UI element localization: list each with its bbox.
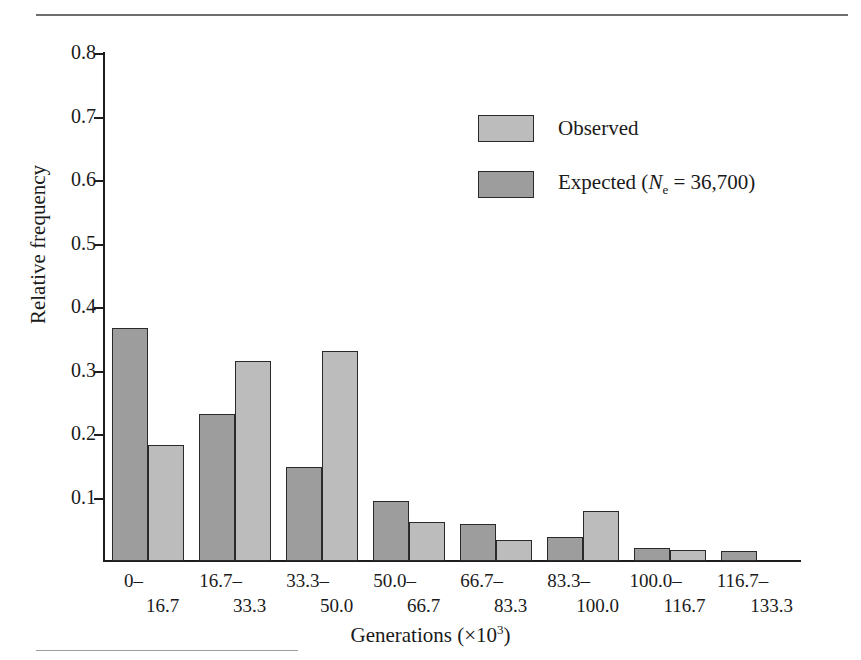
- legend: Observed Expected (Ne = 36,700): [478, 100, 755, 212]
- bar-observed: [148, 445, 184, 561]
- legend-expected-mid: = 36,700): [668, 170, 755, 194]
- bar-observed: [670, 550, 706, 561]
- legend-item-expected: Expected (Ne = 36,700): [478, 156, 755, 212]
- y-tick-label: 0.6: [71, 169, 96, 189]
- x-axis-title-close: ): [504, 623, 511, 647]
- bar-expected: [112, 328, 148, 561]
- bar-observed: [583, 511, 619, 561]
- bar-expected: [199, 414, 235, 561]
- y-tick-label: 0.5: [71, 233, 96, 253]
- bar-observed: [322, 351, 358, 561]
- x-tick-label: 116.7–133.3: [692, 568, 822, 618]
- bar-expected: [547, 537, 583, 561]
- legend-expected-prefix: Expected (: [558, 170, 648, 194]
- x-axis-title-text: Generations (×10: [350, 623, 497, 647]
- legend-item-observed: Observed: [478, 100, 755, 156]
- bar-expected: [721, 551, 757, 561]
- y-tick-label: 0.4: [71, 296, 96, 316]
- legend-expected-symbol: N: [648, 170, 662, 194]
- bar-observed: [496, 540, 532, 561]
- y-tick-label: 0.3: [71, 360, 96, 380]
- x-tick-label-line2: 133.3: [722, 593, 822, 618]
- bar-observed: [235, 361, 271, 561]
- y-tick-label: 0.8: [71, 42, 96, 62]
- bar-expected: [460, 524, 496, 561]
- bar-expected: [634, 548, 670, 561]
- bar-group: [112, 53, 184, 561]
- legend-label-observed: Observed: [558, 116, 638, 141]
- y-tick-label: 0.1: [71, 487, 96, 507]
- y-tick-label: 0.7: [71, 106, 96, 126]
- x-axis-title: Generations (×103): [0, 622, 861, 648]
- bar-group: [286, 53, 358, 561]
- x-tick-label-line1: 116.7–: [692, 568, 794, 593]
- bar-group: [199, 53, 271, 561]
- bar-observed: [409, 522, 445, 561]
- observed-swatch-icon: [478, 115, 534, 142]
- bar-expected: [373, 501, 409, 561]
- bar-expected: [286, 467, 322, 561]
- expected-swatch-icon: [478, 171, 534, 198]
- y-axis-title: Relative frequency: [26, 135, 51, 355]
- bar-group: [373, 53, 445, 561]
- bar-chart-figure: Relative frequency 0.10.20.30.40.50.60.7…: [0, 0, 861, 660]
- y-tick-label: 0.2: [71, 423, 96, 443]
- legend-label-expected: Expected (Ne = 36,700): [558, 170, 755, 198]
